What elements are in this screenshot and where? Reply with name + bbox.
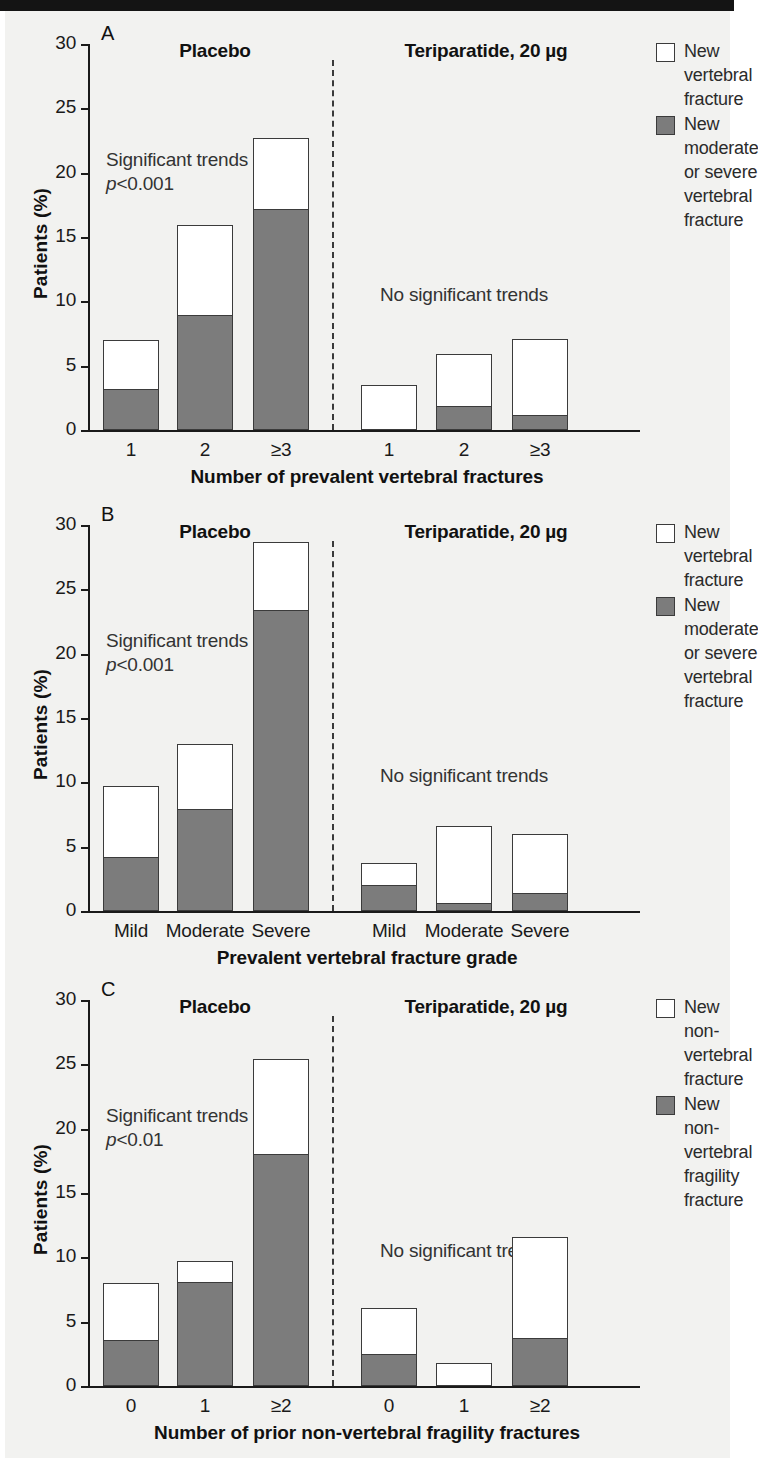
- x-tick-label: ≥2: [488, 1395, 592, 1417]
- p-value-italic: p: [106, 1129, 116, 1150]
- legend-label: Newnon-vertebralfragilityfracture: [684, 1093, 752, 1213]
- bar-total-segment: [253, 1059, 309, 1386]
- x-tick-label: Moderate: [153, 920, 257, 942]
- y-tick: [81, 366, 88, 368]
- x-tick-label: Mild: [79, 920, 183, 942]
- x-tick-label: Severe: [488, 920, 592, 942]
- group-title-placebo: Placebo: [98, 996, 332, 1018]
- bar-total-segment: [177, 225, 233, 430]
- y-tick: [81, 108, 88, 110]
- x-tick-label: ≥3: [488, 439, 592, 461]
- x-tick-label: 1: [153, 1395, 257, 1417]
- bar-gray-segment: [436, 406, 492, 430]
- y-tick: [81, 237, 88, 239]
- significant-trends-line1: Significant trends: [106, 630, 248, 651]
- legend-label-line: fracture: [684, 210, 743, 230]
- y-tick-label: 30: [32, 32, 76, 54]
- bar-gray-segment: [512, 893, 568, 911]
- bar-total-segment: [436, 826, 492, 911]
- y-tick: [81, 1257, 88, 1259]
- bar-total-segment: [512, 1237, 568, 1386]
- y-tick: [81, 1386, 88, 1388]
- y-tick: [81, 911, 88, 913]
- y-tick-label: 25: [32, 1052, 76, 1074]
- bar-gray-segment: [103, 389, 159, 430]
- x-tick-label: Severe: [229, 920, 333, 942]
- legend-label-line: vertebral: [684, 546, 752, 566]
- bar-total-segment: [436, 354, 492, 430]
- x-tick-label: 0: [79, 1395, 183, 1417]
- x-axis-label: Number of prior non-vertebral fragility …: [0, 1422, 734, 1444]
- x-axis-line: [88, 430, 640, 432]
- y-tick-label: 0: [32, 418, 76, 440]
- legend-label-line: vertebral: [684, 186, 752, 206]
- y-tick-label: 10: [32, 289, 76, 311]
- y-tick: [81, 301, 88, 303]
- bar-gray-segment: [177, 1282, 233, 1386]
- y-tick-label: 30: [32, 988, 76, 1010]
- y-tick: [81, 589, 88, 591]
- bar-gray-segment: [361, 885, 417, 911]
- bar-gray-segment: [253, 209, 309, 430]
- legend-swatch-gray-icon: [656, 1096, 675, 1115]
- x-tick-label: Moderate: [412, 920, 516, 942]
- legend-item: Newvertebralfracture: [656, 40, 734, 112]
- panel-letter: B: [101, 503, 114, 526]
- legend-label: Newmoderateor severevertebralfracture: [684, 594, 758, 714]
- y-tick: [81, 1000, 88, 1002]
- legend-label-line: or severe: [684, 162, 757, 182]
- bar-total-segment: [253, 138, 309, 430]
- bar-total-segment: [361, 385, 417, 430]
- legend-label-line: moderate: [684, 619, 758, 639]
- y-tick-label: 15: [32, 1181, 76, 1203]
- right-margin-border: [730, 11, 734, 1458]
- legend-item: Newmoderateor severevertebralfracture: [656, 594, 734, 714]
- x-tick-label: Mild: [337, 920, 441, 942]
- group-divider: [332, 541, 334, 911]
- x-axis-label: Number of prevalent vertebral fractures: [0, 466, 734, 488]
- significant-trends-annotation: Significant trendsp<0.01: [106, 1104, 248, 1152]
- legend-item: Newnon-vertebralfracture: [656, 996, 734, 1092]
- no-significant-trends-annotation: No significant trends: [380, 764, 548, 788]
- bar-gray-segment: [253, 610, 309, 911]
- legend-label-line: New: [684, 595, 719, 615]
- left-margin-border: [0, 11, 5, 1458]
- y-axis-line: [88, 44, 90, 432]
- legend: NewvertebralfractureNewmoderateor severe…: [656, 521, 734, 715]
- y-tick-label: 0: [32, 899, 76, 921]
- legend: Newnon-vertebralfractureNewnon-vertebral…: [656, 996, 734, 1213]
- panel-letter: A: [101, 22, 114, 45]
- x-tick-label: 2: [412, 439, 516, 461]
- bar-gray-segment: [103, 1340, 159, 1386]
- legend-swatch-gray-icon: [656, 597, 675, 616]
- x-tick-label: 1: [337, 439, 441, 461]
- y-tick: [81, 525, 88, 527]
- panel-letter: C: [101, 978, 115, 1001]
- y-tick-label: 20: [32, 161, 76, 183]
- y-tick: [81, 782, 88, 784]
- group-title-teriparatide: Teriparatide, 20 µg: [332, 521, 640, 543]
- y-tick: [81, 173, 88, 175]
- legend-label: Newvertebralfracture: [684, 521, 752, 593]
- no-significant-trends-annotation: No significant trends: [380, 283, 548, 307]
- y-tick-label: 20: [32, 1117, 76, 1139]
- bar-total-segment: [512, 834, 568, 911]
- bar-gray-segment: [177, 809, 233, 911]
- legend-label-line: New: [684, 41, 719, 61]
- y-tick-label: 10: [32, 1245, 76, 1267]
- y-axis-line: [88, 1000, 90, 1388]
- significant-trends-line1: Significant trends: [106, 1105, 248, 1126]
- bar-gray-segment: [512, 415, 568, 430]
- legend-item: Newvertebralfracture: [656, 521, 734, 593]
- y-tick: [81, 1064, 88, 1066]
- y-axis-label: Patients (%): [30, 669, 52, 780]
- significant-trends-annotation: Significant trendsp<0.001: [106, 629, 248, 677]
- bar-gray-segment: [103, 857, 159, 911]
- y-tick: [81, 1322, 88, 1324]
- legend-label-line: fracture: [684, 691, 743, 711]
- legend-swatch-gray-icon: [656, 116, 675, 135]
- bar-total-segment: [177, 1261, 233, 1386]
- no-significant-trends-annotation: No significant trends: [380, 1239, 548, 1263]
- y-tick: [81, 430, 88, 432]
